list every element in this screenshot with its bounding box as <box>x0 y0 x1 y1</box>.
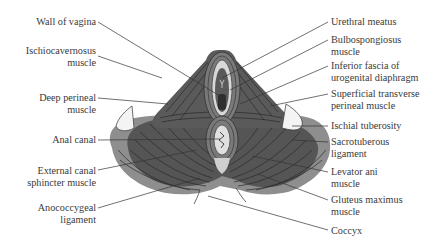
label-urethral-meatus: Urethral meatus <box>331 16 396 28</box>
label-ischiocavernosus: Ischiocavernosusmuscle <box>26 45 96 68</box>
label-sacrotuberous: Sacrotuberousligament <box>331 136 389 159</box>
label-coccyx: Coccyx <box>331 225 362 237</box>
label-gluteus-maximus: Gluteus maximusmuscle <box>331 194 403 217</box>
label-anococcygeal: Anococcygealligament <box>38 202 96 225</box>
label-bulbospongiosus: Bulbospongiosusmuscle <box>331 34 401 57</box>
label-inferior-fascia: Inferior fascia ofurogenital diaphragm <box>331 60 418 83</box>
label-wall-of-vagina: Wall of vagina <box>36 16 96 28</box>
vaginal-opening <box>218 94 226 110</box>
label-anal-canal: Anal canal <box>52 134 96 146</box>
label-external-canal-sphincter: External canalsphincter muscle <box>27 165 96 188</box>
label-levator-ani: Levator animuscle <box>331 166 378 189</box>
label-superficial-transverse: Superficial transverseperineal muscle <box>331 88 420 111</box>
label-ischial-tuberosity: Ischial tuberosity <box>331 120 401 132</box>
label-deep-perineal: Deep perinealmuscle <box>39 92 96 115</box>
